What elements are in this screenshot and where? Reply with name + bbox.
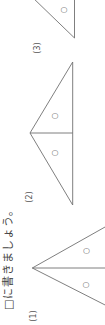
- figure-1-lower-side: [32, 268, 105, 308]
- figure-2-angle-mark-lower: ○: [52, 148, 59, 157]
- figure-2: ○ ○: [30, 62, 73, 205]
- figure-3: ○: [30, 0, 75, 38]
- figure-1-upper-side: [32, 224, 105, 268]
- figure-2-upper-side: [30, 62, 73, 133]
- figure-2-lower-side: [30, 133, 73, 205]
- figure-1-angle-mark-upper: ○: [83, 246, 90, 255]
- figure-3-angle-mark: ○: [61, 5, 68, 14]
- figure-2-angle-mark-upper: ○: [52, 111, 59, 120]
- figure-1-angle-mark-lower: ○: [83, 280, 90, 289]
- figure-3-hypotenuse: [30, 0, 75, 38]
- figure-1: ○ ○: [32, 224, 105, 307]
